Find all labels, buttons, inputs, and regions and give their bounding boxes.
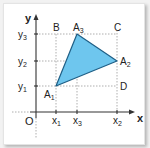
coordinate-diagram: y x O y3 y2 y1 x1 x3 x2 B C D A1 A2 A3 — [0, 0, 150, 148]
x-tick-labels: x1 x3 x2 — [52, 115, 122, 127]
vertex-a3-label: A3 — [73, 22, 84, 34]
origin-label: O — [25, 115, 34, 127]
svg-text:y2: y2 — [18, 56, 27, 68]
vertex-a2-label: A2 — [120, 56, 131, 68]
svg-text:y3: y3 — [18, 29, 27, 41]
y-axis-label: y — [25, 12, 32, 24]
triangle-a1a2a3 — [56, 34, 117, 86]
svg-text:x3: x3 — [73, 115, 82, 127]
y-axis-arrow-icon — [34, 14, 39, 20]
svg-text:x2: x2 — [113, 115, 122, 127]
svg-text:x1: x1 — [52, 115, 61, 127]
point-c-label: C — [114, 22, 121, 33]
vertex-a1-label: A1 — [44, 89, 55, 101]
y-tick-labels: y3 y2 y1 — [18, 29, 27, 93]
x-axis-arrow-icon — [129, 110, 135, 115]
x-axis-label: x — [137, 112, 144, 124]
point-b-label: B — [53, 22, 60, 33]
point-d-label: D — [120, 81, 127, 92]
svg-text:y1: y1 — [18, 81, 27, 93]
